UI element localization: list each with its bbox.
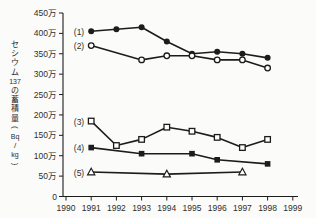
series-3-label: (3) (74, 117, 85, 127)
filled-square-marker (139, 151, 145, 157)
chart-container: 050万100万150万200万250万300万350万400万450万1990… (0, 0, 316, 218)
x-tick-label: 1990 (57, 203, 76, 213)
filled-square-marker (265, 161, 271, 167)
filled-circle-marker (113, 26, 119, 32)
series-1-label: (1) (74, 27, 85, 37)
open-square-marker (114, 143, 120, 149)
series-4-label: (4) (74, 143, 85, 153)
filled-square-marker (189, 151, 195, 157)
y-tick-label: 300万 (34, 69, 57, 79)
x-tick-label: 1994 (157, 203, 176, 213)
open-circle-marker (164, 53, 170, 59)
series-2-label: (2) (74, 41, 85, 51)
y-axis-label-char: 積 (11, 103, 19, 113)
filled-circle-marker (164, 39, 170, 45)
filled-circle-marker (265, 55, 271, 61)
filled-square-marker (88, 145, 94, 151)
open-circle-marker (240, 57, 246, 63)
y-tick-label: 400万 (34, 28, 57, 38)
x-tick-label: 1996 (208, 203, 227, 213)
filled-circle-marker (214, 49, 220, 55)
filled-square-marker (214, 157, 220, 163)
y-tick-label: 150万 (34, 130, 57, 140)
x-tick-label: 1998 (258, 203, 277, 213)
open-square-marker (189, 128, 195, 134)
y-tick-label: 250万 (34, 90, 57, 100)
filled-circle-marker (239, 51, 245, 57)
open-square-marker (88, 118, 94, 124)
y-tick-label: 50万 (39, 171, 57, 181)
x-tick-label: 1997 (233, 203, 252, 213)
y-tick-label: 0 (52, 192, 57, 202)
x-tick-label: 1992 (107, 203, 126, 213)
y-axis-label-char: 137 (9, 78, 21, 85)
y-axis-label-char: の (11, 86, 19, 95)
open-square-marker (139, 137, 145, 143)
y-axis-label-char: 蓄 (11, 94, 19, 104)
y-tick-label: 450万 (34, 8, 57, 18)
y-axis-label-char: ( (11, 126, 20, 129)
open-square-marker (164, 124, 170, 130)
y-tick-label: 350万 (34, 49, 57, 59)
y-axis-label-char: ) (11, 163, 20, 166)
open-circle-marker (139, 57, 145, 63)
filled-circle-marker (88, 28, 94, 34)
open-square-marker (214, 135, 220, 141)
filled-circle-marker (139, 24, 145, 30)
y-axis-label-char: kg (11, 151, 19, 159)
open-circle-marker (189, 53, 195, 59)
y-axis-label-char: セ (11, 40, 19, 49)
x-tick-label: 1991 (82, 203, 101, 213)
open-square-marker (240, 145, 246, 151)
y-tick-label: 200万 (34, 110, 57, 120)
y-tick-label: 100万 (34, 151, 57, 161)
y-axis-label-char: Bq (11, 133, 20, 141)
open-circle-marker (88, 43, 94, 49)
open-square-marker (265, 137, 271, 143)
x-tick-label: 1995 (183, 203, 202, 213)
y-axis-label-char: シ (11, 49, 19, 58)
y-axis-label-char: ム (11, 68, 19, 77)
cesium-accumulation-line-chart: 050万100万150万200万250万300万350万400万450万1990… (0, 0, 316, 218)
y-axis-label-char: 量 (11, 114, 19, 123)
y-axis-label-char: / (14, 141, 17, 150)
x-tick-label: 1999 (283, 203, 302, 213)
open-circle-marker (214, 57, 220, 63)
open-circle-marker (265, 65, 271, 71)
x-tick-label: 1993 (132, 203, 151, 213)
y-axis-label-char: ウ (11, 58, 19, 67)
series-5-label: (5) (74, 168, 85, 178)
